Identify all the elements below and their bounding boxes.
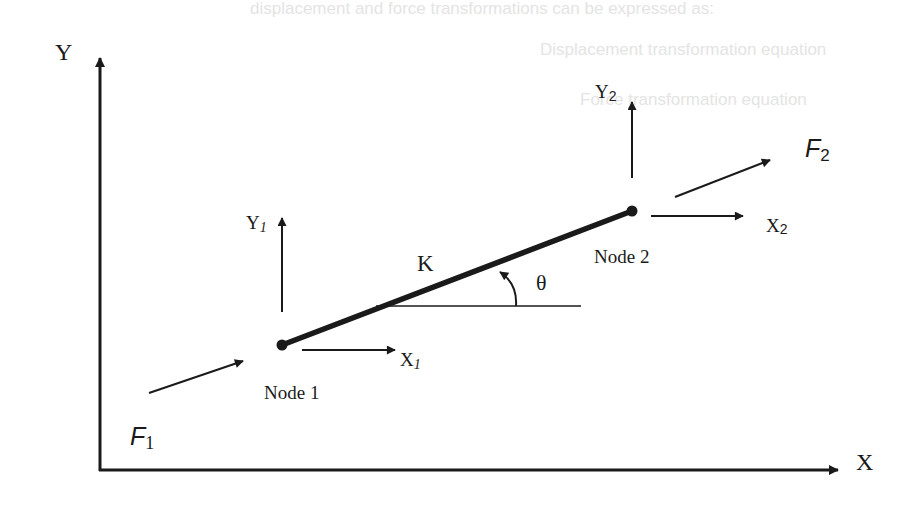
theta-label: θ <box>536 270 547 295</box>
f2-label: F2 <box>805 134 830 165</box>
bleed-line-1: displacement and force transformations c… <box>250 0 714 18</box>
bleed-line-2: Displacement transformation equation <box>540 40 826 59</box>
node-1-point <box>277 340 288 351</box>
node-1-label: Node 1 <box>264 382 319 403</box>
x1-label: X1 <box>400 349 421 372</box>
y-axis-label: Y <box>55 39 72 65</box>
f2-arrow-icon <box>675 160 770 197</box>
f1-arrow-icon <box>149 361 243 393</box>
x-axis-label: X <box>856 449 873 475</box>
y2-label: Y2 <box>595 81 617 104</box>
node-2-label: Node 2 <box>594 246 649 267</box>
stiffness-label: K <box>417 251 434 276</box>
element-diagram: displacement and force transformations c… <box>0 0 921 506</box>
node-2-point <box>627 206 638 217</box>
f1-label: F1 <box>130 422 154 453</box>
x2-label: X2 <box>766 215 788 237</box>
y1-label: Y1 <box>246 212 267 235</box>
diagram-svg: displacement and force transformations c… <box>0 0 921 506</box>
theta-arc-arrow-icon <box>500 272 516 306</box>
bleed-through-text: displacement and force transformations c… <box>250 0 826 109</box>
element-bar <box>282 211 632 345</box>
